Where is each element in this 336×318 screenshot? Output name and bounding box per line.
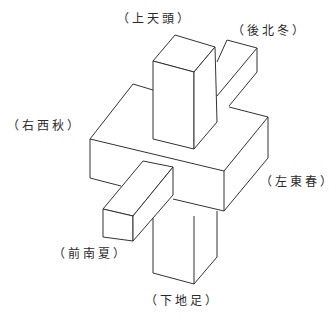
block-assembly-drawing bbox=[0, 0, 336, 318]
label-top: （上天頭） bbox=[117, 12, 192, 26]
label-front: （前南夏） bbox=[53, 247, 128, 261]
diagram-canvas: （上天頭） （後北冬） （右西秋） （左東春） （前南夏） （下地足） bbox=[0, 0, 336, 318]
label-left-east: （左東春） bbox=[260, 175, 335, 189]
label-bottom: （下地足） bbox=[145, 294, 220, 308]
bottom-pillar bbox=[153, 206, 217, 284]
front-bar bbox=[103, 161, 173, 241]
label-right-west: （右西秋） bbox=[7, 119, 82, 133]
label-back: （後北冬） bbox=[232, 24, 307, 38]
back-bar bbox=[217, 40, 257, 106]
top-pillar bbox=[153, 35, 217, 149]
